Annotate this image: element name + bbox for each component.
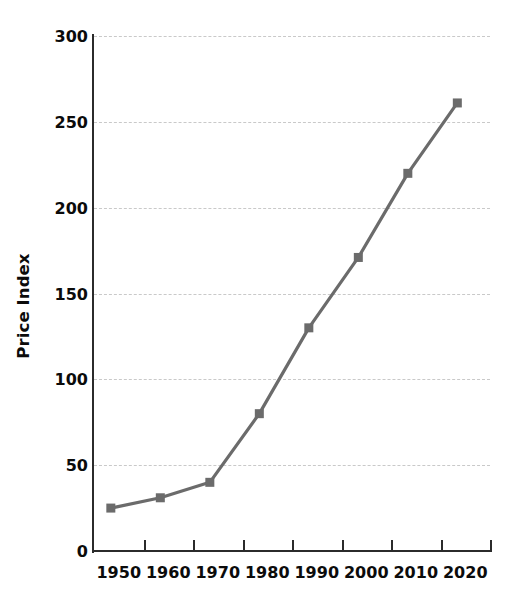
y-axis-tick-label: 200 <box>34 198 88 217</box>
y-axis-tick-label: 0 <box>34 542 88 561</box>
gridline <box>94 465 490 466</box>
y-axis-line <box>92 34 94 553</box>
x-axis-tick-mark <box>342 540 344 551</box>
x-axis-tick-mark <box>441 540 443 551</box>
x-axis-tick-mark <box>391 540 393 551</box>
gridline <box>94 122 490 123</box>
gridline <box>94 294 490 295</box>
y-axis-tick-label: 100 <box>34 370 88 389</box>
y-axis-tick-label: 150 <box>34 284 88 303</box>
plot-area <box>94 36 490 551</box>
gridline <box>94 36 490 37</box>
y-axis-tick-label: 250 <box>34 112 88 131</box>
x-axis-tick-mark <box>193 540 195 551</box>
gridline <box>94 208 490 209</box>
y-axis-tick-labels: 050100150200250300 <box>30 0 88 612</box>
x-axis-tick-mark <box>243 540 245 551</box>
y-axis-tick-label: 50 <box>34 456 88 475</box>
y-axis-tick-label: 300 <box>34 27 88 46</box>
x-axis-tick-mark <box>490 540 492 551</box>
x-axis-tick-mark <box>292 540 294 551</box>
x-axis-tick-mark <box>144 540 146 551</box>
line-chart: Price Index 050100150200250300 195019601… <box>0 0 522 612</box>
gridline <box>94 379 490 380</box>
x-axis-tick-label: 2020 <box>430 563 500 582</box>
